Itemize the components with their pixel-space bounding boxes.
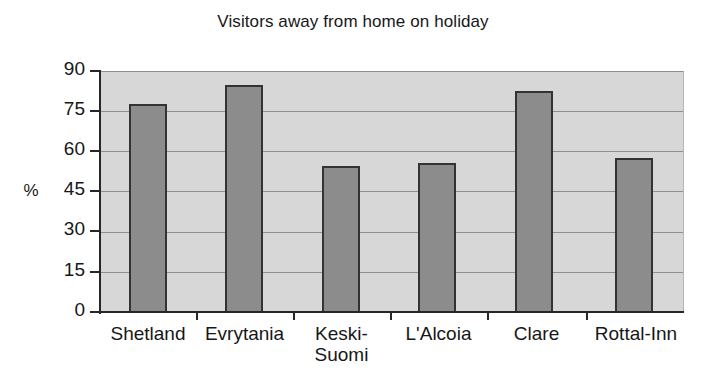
y-tick-label-60: 60 bbox=[64, 139, 85, 158]
chart-title: Visitors away from home on holiday bbox=[0, 12, 706, 32]
x-label-l-alcoia: L'Alcoia bbox=[390, 323, 487, 344]
bar-l-alcoia bbox=[418, 163, 456, 313]
x-tick-mark-1 bbox=[196, 311, 198, 320]
x-tick-mark-5 bbox=[586, 311, 588, 320]
x-label-rottal-inn: Rottal-Inn bbox=[586, 323, 686, 344]
gridline-60 bbox=[100, 151, 683, 152]
bar-evrytania bbox=[225, 85, 263, 313]
y-tick-mark-15 bbox=[90, 271, 99, 273]
y-tick-label-0: 0 bbox=[74, 300, 85, 319]
bar-clare bbox=[515, 91, 553, 313]
y-tick-mark-45 bbox=[90, 190, 99, 192]
bar-keski-suomi bbox=[322, 166, 360, 313]
gridline-45 bbox=[100, 191, 683, 192]
y-tick-mark-0 bbox=[90, 311, 99, 313]
y-tick-mark-60 bbox=[90, 150, 99, 152]
y-tick-label-45: 45 bbox=[64, 179, 85, 198]
x-tick-mark-2 bbox=[293, 311, 295, 320]
y-tick-label-30: 30 bbox=[64, 219, 85, 238]
y-axis-line bbox=[99, 70, 101, 314]
bar-shetland bbox=[129, 104, 167, 313]
x-label-evrytania: Evrytania bbox=[196, 323, 293, 344]
y-tick-label-90: 90 bbox=[64, 59, 85, 78]
bar-chart-figure: Visitors away from home on holiday % 0 1… bbox=[0, 0, 706, 384]
y-tick-label-75: 75 bbox=[64, 99, 85, 118]
gridline-15 bbox=[100, 272, 683, 273]
x-tick-mark-3 bbox=[390, 311, 392, 320]
bar-rottal-inn bbox=[615, 158, 653, 313]
x-label-keski-suomi: Keski- Suomi bbox=[293, 323, 390, 365]
gridline-30 bbox=[100, 232, 683, 233]
y-tick-mark-30 bbox=[90, 230, 99, 232]
x-label-shetland: Shetland bbox=[100, 323, 196, 344]
plot-area bbox=[100, 71, 684, 313]
x-label-clare: Clare bbox=[487, 323, 586, 344]
y-tick-mark-90 bbox=[90, 70, 99, 72]
y-axis-title: % bbox=[16, 181, 46, 201]
gridline-75 bbox=[100, 111, 683, 112]
y-tick-label-15: 15 bbox=[64, 260, 85, 279]
y-tick-mark-75 bbox=[90, 110, 99, 112]
x-tick-mark-4 bbox=[487, 311, 489, 320]
